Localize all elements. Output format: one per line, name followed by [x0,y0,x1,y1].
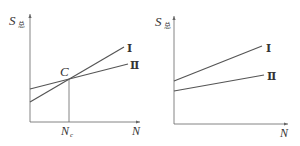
intersection-label-c: C [60,64,69,79]
right-x-axis-label: N [279,126,289,140]
right-diagram: S 总 Ⅰ Ⅱ N [155,14,289,140]
right-line-II-label: Ⅱ [267,70,276,82]
left-line-I [30,47,124,102]
right-y-axis-subscript: 总 [164,21,171,30]
nc-subscript: c [70,131,74,139]
diagram-canvas: S 总 C Ⅰ Ⅱ N c N S 总 Ⅰ Ⅱ N [0,0,300,146]
left-y-axis-subscript: 总 [18,20,25,29]
left-line-II [30,64,128,89]
left-x-axis-label: N [131,124,141,138]
nc-label: N [60,124,70,138]
left-line-I-label: Ⅰ [127,42,132,54]
left-line-II-label: Ⅱ [130,59,139,71]
left-y-axis-label: S [9,13,16,28]
right-line-I [174,46,262,81]
right-y-axis-label: S [155,14,162,29]
right-line-II [174,75,264,91]
left-diagram: S 总 C Ⅰ Ⅱ N c N [9,13,141,139]
right-line-I-label: Ⅰ [266,42,271,54]
